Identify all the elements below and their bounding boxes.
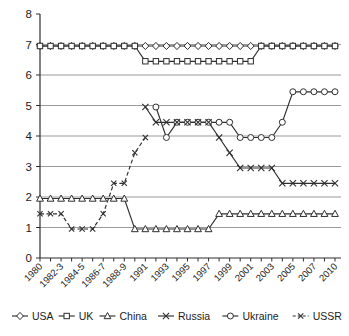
y-tick-label: 0 [26, 252, 32, 264]
square-marker [122, 43, 127, 48]
y-tick-label: 7 [26, 39, 32, 51]
square-marker [48, 43, 53, 48]
y-tick-label: 8 [26, 8, 32, 20]
square-marker [174, 59, 179, 64]
square-marker [216, 59, 221, 64]
circle-marker [269, 135, 275, 141]
square-marker [79, 43, 84, 48]
square-marker [164, 59, 169, 64]
square-marker [69, 43, 74, 48]
square-marker [322, 43, 327, 48]
circle-marker [321, 89, 327, 95]
square-marker [269, 43, 274, 48]
square-marker [259, 43, 264, 48]
square-marker [37, 43, 42, 48]
plot-background [0, 0, 349, 336]
square-marker [185, 59, 190, 64]
y-tick-label: 2 [26, 191, 32, 203]
square-marker [237, 59, 242, 64]
circle-marker [279, 119, 285, 125]
square-marker [290, 43, 295, 48]
square-marker [301, 43, 306, 48]
square-marker [248, 59, 253, 64]
y-tick-label: 1 [26, 222, 32, 234]
square-marker [143, 59, 148, 64]
circle-marker [300, 89, 306, 95]
circle-marker [153, 104, 159, 110]
square-marker [101, 43, 106, 48]
circle-marker [216, 119, 222, 125]
legend-label: Russia [178, 310, 210, 322]
line-chart: 01234567819801982-31984-51986-71988-9199… [0, 0, 349, 336]
circle-marker [258, 135, 264, 141]
square-marker [64, 313, 69, 318]
y-tick-label: 4 [26, 130, 33, 142]
legend-label: USA [32, 310, 54, 322]
circle-marker [311, 89, 317, 95]
square-marker [111, 43, 116, 48]
square-marker [332, 43, 337, 48]
circle-marker [237, 135, 243, 141]
legend-label: Ukraine [242, 310, 278, 322]
square-marker [227, 59, 232, 64]
circle-marker [290, 89, 296, 95]
square-marker [195, 59, 200, 64]
legend-label: China [120, 310, 148, 322]
y-tick-label: 3 [26, 161, 32, 173]
y-tick-label: 5 [26, 100, 32, 112]
square-marker [90, 43, 95, 48]
line-chart-svg: 01234567819801982-31984-51986-71988-9199… [0, 0, 349, 336]
square-marker [132, 43, 137, 48]
square-marker [153, 59, 158, 64]
circle-marker [248, 135, 254, 141]
square-marker [206, 59, 211, 64]
legend-label: UK [79, 310, 94, 322]
circle-marker [163, 135, 169, 141]
square-marker [311, 43, 316, 48]
circle-marker [332, 89, 338, 95]
legend-label: USSR [313, 310, 343, 322]
y-tick-label: 6 [26, 69, 32, 81]
square-marker [280, 43, 285, 48]
circle-marker [227, 119, 233, 125]
square-marker [58, 43, 63, 48]
circle-marker [227, 313, 233, 319]
